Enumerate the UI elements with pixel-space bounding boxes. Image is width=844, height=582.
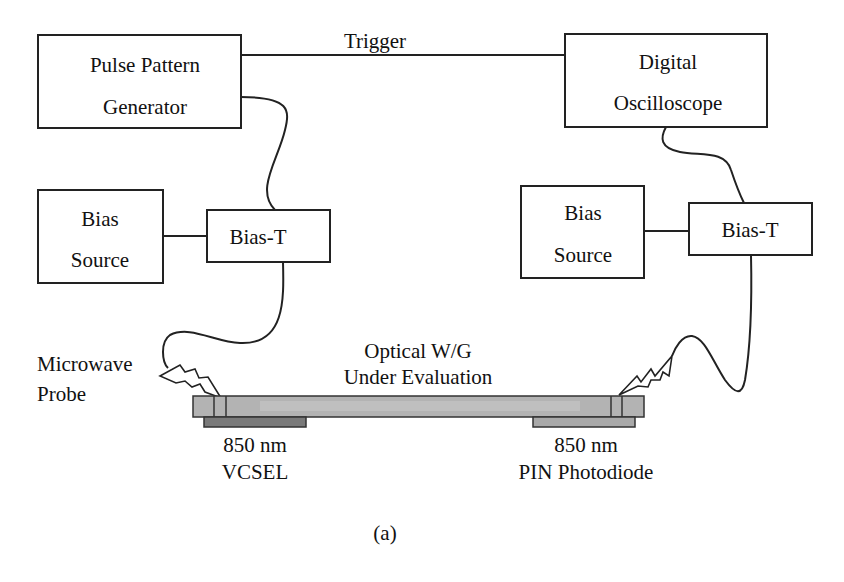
vcsel-label-line2: VCSEL [222, 460, 289, 484]
bias-t-left-block: Bias-T [207, 210, 330, 262]
microwave-probe-label-line1: Microwave [37, 352, 133, 376]
microwave-probe-left-icon [160, 365, 221, 398]
bias-source-right-block: Bias Source [521, 186, 644, 278]
ppg-to-bias-t-cable [241, 97, 287, 210]
bias-source-right-line2: Source [554, 243, 612, 267]
bias-t-right-label: Bias-T [721, 218, 778, 242]
pin-photodiode-device [533, 417, 635, 427]
bias-t-right-to-probe-cable [672, 255, 751, 391]
bias-source-left-line2: Source [71, 248, 129, 272]
photodiode-label-line1: 850 nm [554, 433, 618, 457]
bias-t-right-block: Bias-T [689, 203, 812, 255]
vcsel-label-line1: 850 nm [223, 433, 287, 457]
pulse-pattern-generator-block: Pulse Pattern Generator [38, 35, 241, 128]
dso-to-bias-t-cable [663, 127, 744, 203]
vcsel-device [204, 417, 306, 427]
waveguide-label-line1: Optical W/G [364, 339, 472, 363]
bias-source-left-block: Bias Source [38, 190, 163, 283]
microwave-probe-right-icon [619, 356, 672, 395]
photodiode-label-line2: PIN Photodiode [519, 460, 654, 484]
waveguide-label-line2: Under Evaluation [344, 365, 493, 389]
microwave-probe-label-line2: Probe [37, 382, 86, 406]
digital-oscilloscope-block: Digital Oscilloscope [565, 34, 767, 127]
ppg-label-line1: Pulse Pattern [90, 53, 201, 77]
figure-caption: (a) [373, 521, 396, 545]
bias-source-right-line1: Bias [564, 201, 601, 225]
trigger-label: Trigger [344, 29, 406, 53]
measurement-setup-diagram: Trigger Pulse Pattern Generator Digital … [0, 0, 844, 582]
bias-source-left-line1: Bias [81, 207, 118, 231]
ppg-label-line2: Generator [103, 95, 187, 119]
bias-t-left-label: Bias-T [229, 225, 286, 249]
optical-waveguide [193, 396, 644, 417]
dso-label-line2: Oscilloscope [614, 91, 722, 115]
bias-t-left-to-probe-cable [163, 262, 283, 368]
dso-label-line1: Digital [639, 50, 697, 74]
